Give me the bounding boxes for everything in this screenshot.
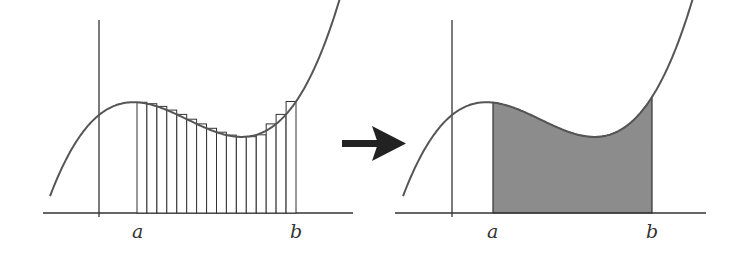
- riemann-rectangle: [276, 114, 286, 213]
- left-label-b: b: [290, 220, 302, 242]
- left-label-a: a: [132, 220, 143, 242]
- right-label-b: b: [646, 220, 658, 242]
- riemann-rectangle: [147, 104, 157, 213]
- riemann-sum-diagram: a b a b: [0, 0, 743, 254]
- riemann-rectangle: [157, 106, 167, 213]
- riemann-rectangles: [137, 102, 296, 214]
- riemann-rectangle: [286, 102, 296, 214]
- riemann-rectangle: [197, 124, 207, 213]
- riemann-rectangle: [266, 124, 276, 213]
- right-label-a: a: [487, 220, 498, 242]
- riemann-rectangle: [187, 119, 197, 213]
- riemann-rectangle: [246, 137, 256, 213]
- riemann-rectangle: [256, 135, 266, 213]
- riemann-rectangle: [167, 110, 177, 213]
- riemann-rectangle: [137, 102, 147, 213]
- riemann-rectangle: [207, 128, 217, 213]
- shaded-area: [493, 97, 652, 213]
- right-panel: a b: [395, 0, 706, 242]
- left-panel: a b: [43, 0, 353, 242]
- riemann-rectangle: [226, 135, 236, 213]
- riemann-rectangle: [217, 132, 227, 213]
- riemann-rectangle: [177, 114, 187, 213]
- riemann-rectangle: [236, 137, 246, 213]
- right-arrow-icon: [342, 126, 406, 161]
